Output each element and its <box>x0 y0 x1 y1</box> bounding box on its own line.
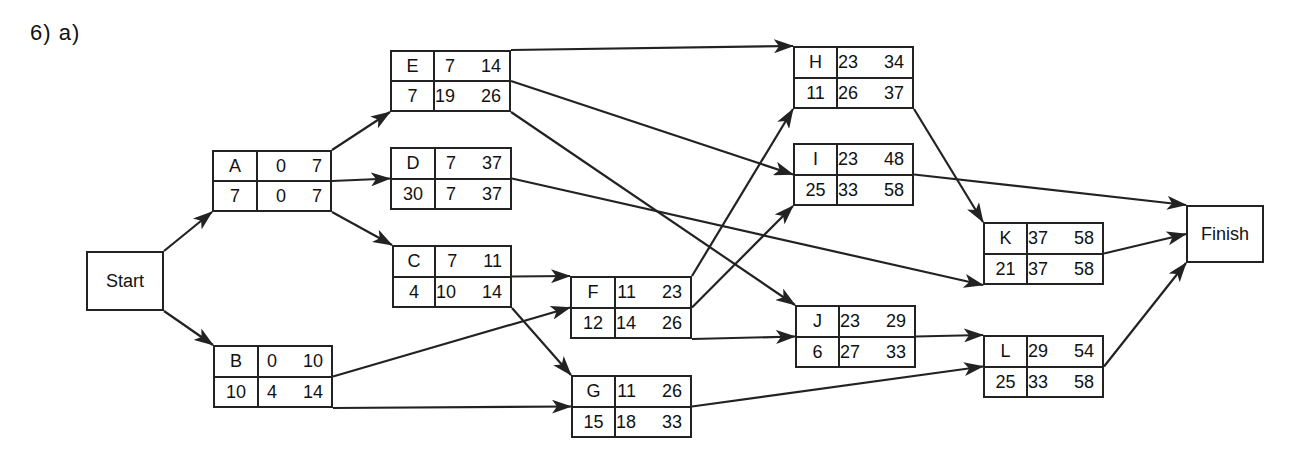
late-start-finish: 7 37 <box>435 179 510 209</box>
activity-node-h: H23 341126 37 <box>793 46 914 109</box>
arrow-h-to-k <box>914 109 983 222</box>
activity-duration: 7 <box>392 81 434 110</box>
early-start-finish: 7 14 <box>434 52 509 81</box>
late-start-finish: 33 58 <box>1027 367 1102 397</box>
arrow-j-to-l <box>916 335 983 337</box>
activity-duration: 12 <box>572 308 615 338</box>
arrow-g-to-l <box>692 367 983 407</box>
activity-id: F <box>572 278 615 308</box>
early-start-finish: 0 10 <box>258 347 331 377</box>
activity-duration: 6 <box>797 337 839 367</box>
early-start-finish: 7 11 <box>435 247 510 277</box>
late-start-finish: 10 14 <box>435 277 510 307</box>
activity-node-d: D7 37307 37 <box>390 147 512 210</box>
activity-duration: 25 <box>795 175 837 205</box>
activity-duration: 15 <box>573 407 615 437</box>
early-start-finish: 11 26 <box>615 377 690 407</box>
activity-node-j: J23 29627 33 <box>795 305 916 368</box>
late-start-finish: 27 33 <box>839 337 914 367</box>
activity-node-e: E7 14719 26 <box>390 50 511 112</box>
activity-node-i: I23 482533 58 <box>793 143 914 206</box>
arrow-k-to-finish <box>1104 234 1186 254</box>
arrow-start-to-a <box>164 212 212 251</box>
activity-id: K <box>985 224 1027 254</box>
activity-duration: 11 <box>795 78 837 108</box>
arrow-b-to-f <box>333 308 570 377</box>
terminal-finish: Finish <box>1186 205 1264 263</box>
activity-duration: 10 <box>215 377 258 407</box>
terminal-label: Start <box>106 271 144 292</box>
early-start-finish: 37 58 <box>1027 224 1102 254</box>
activity-node-l: L29 542533 58 <box>983 335 1104 398</box>
arrow-c-to-f <box>512 276 570 277</box>
terminal-label: Finish <box>1201 224 1249 245</box>
late-start-finish: 18 33 <box>615 407 690 437</box>
arrow-l-to-finish <box>1104 263 1186 367</box>
arrow-f-to-h <box>692 109 793 276</box>
early-start-finish: 11 23 <box>615 278 690 308</box>
late-start-finish: 19 26 <box>434 81 509 110</box>
activity-id: I <box>795 145 837 175</box>
early-start-finish: 0 7 <box>257 152 330 181</box>
arrow-c-to-g <box>512 308 571 375</box>
early-start-finish: 23 48 <box>837 145 912 175</box>
activity-id: G <box>573 377 615 407</box>
late-start-finish: 0 7 <box>257 181 330 210</box>
arrow-e-to-i <box>511 81 793 175</box>
arrow-a-to-e <box>332 112 390 150</box>
arrow-start-to-b <box>164 311 213 345</box>
arrow-a-to-c <box>332 212 392 245</box>
activity-id: A <box>214 152 257 181</box>
activity-duration: 7 <box>214 181 257 210</box>
activity-duration: 4 <box>394 277 435 307</box>
late-start-finish: 14 26 <box>615 308 690 338</box>
late-start-finish: 4 14 <box>258 377 331 407</box>
activity-id: H <box>795 48 837 78</box>
late-start-finish: 37 58 <box>1027 254 1102 284</box>
early-start-finish: 23 34 <box>837 48 912 78</box>
arrow-a-to-d <box>332 179 390 182</box>
activity-duration: 21 <box>985 254 1027 284</box>
activity-node-b: B0 10104 14 <box>213 345 333 408</box>
arrow-b-to-g <box>333 407 571 409</box>
activity-node-k: K37 582137 58 <box>983 222 1104 285</box>
activity-id: D <box>392 149 435 179</box>
activity-node-c: C7 11410 14 <box>392 245 512 308</box>
activity-id: E <box>392 52 434 81</box>
activity-id: J <box>797 307 839 337</box>
late-start-finish: 33 58 <box>837 175 912 205</box>
late-start-finish: 26 37 <box>837 78 912 108</box>
activity-id: B <box>215 347 258 377</box>
terminal-start: Start <box>86 251 164 311</box>
activity-duration: 25 <box>985 367 1027 397</box>
activity-duration: 30 <box>392 179 435 209</box>
activity-node-g: G11 261518 33 <box>571 375 692 438</box>
early-start-finish: 29 54 <box>1027 337 1102 367</box>
activity-node-f: F11 231214 26 <box>570 276 692 339</box>
early-start-finish: 7 37 <box>435 149 510 179</box>
arrow-i-to-finish <box>914 175 1186 206</box>
arrow-e-to-h <box>511 46 793 50</box>
early-start-finish: 23 29 <box>839 307 914 337</box>
arrow-f-to-j <box>692 337 795 340</box>
activity-id: C <box>394 247 435 277</box>
activity-node-a: A0 770 7 <box>212 150 332 212</box>
activity-id: L <box>985 337 1027 367</box>
